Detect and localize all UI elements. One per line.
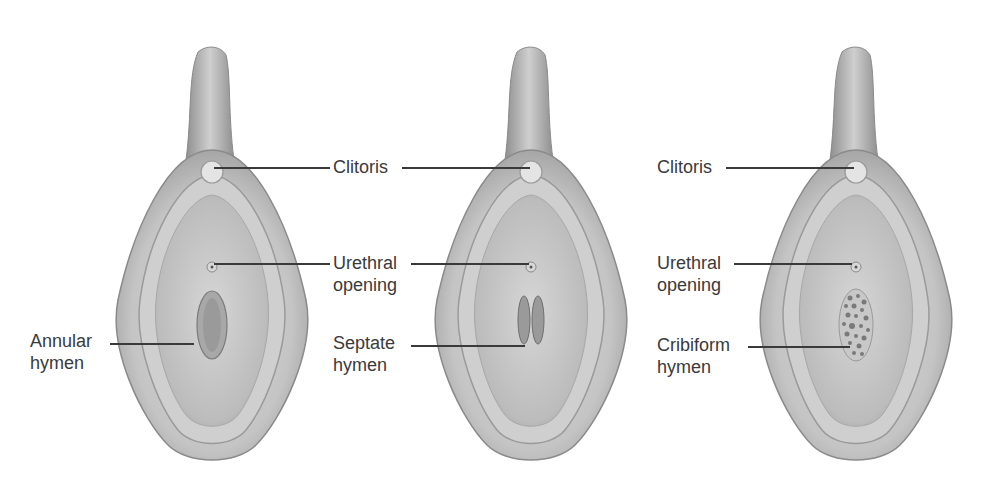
leader-annular-hymen — [110, 343, 194, 345]
figure-septate — [425, 0, 625, 490]
leader-cribiform-hymen — [748, 346, 850, 348]
cribiform-hymen-illustration — [750, 0, 962, 490]
leader-clitoris-fig1 — [214, 167, 330, 169]
label-clitoris-cribiform: Clitoris — [657, 156, 712, 178]
leader-urethral-cribiform — [734, 263, 852, 265]
label-urethral-septate: Urethral opening — [333, 252, 397, 296]
label-urethral-cribiform: Urethral opening — [657, 252, 721, 296]
annular-hymen-illustration — [106, 0, 318, 490]
leader-urethral-fig1 — [214, 263, 330, 265]
figure-cribiform — [750, 0, 950, 490]
leader-urethral-septate — [411, 263, 529, 265]
figure-annular — [106, 0, 306, 490]
label-cribiform-hymen: Cribiform hymen — [657, 334, 730, 378]
label-annular-hymen: Annular hymen — [30, 330, 92, 374]
label-clitoris-septate: Clitoris — [333, 156, 388, 178]
septate-hymen-illustration — [425, 0, 637, 490]
leader-clitoris-cribiform — [726, 167, 854, 169]
label-septate-hymen: Septate hymen — [333, 332, 395, 376]
leader-septate-hymen — [411, 345, 525, 347]
leader-clitoris-septate — [402, 167, 530, 169]
